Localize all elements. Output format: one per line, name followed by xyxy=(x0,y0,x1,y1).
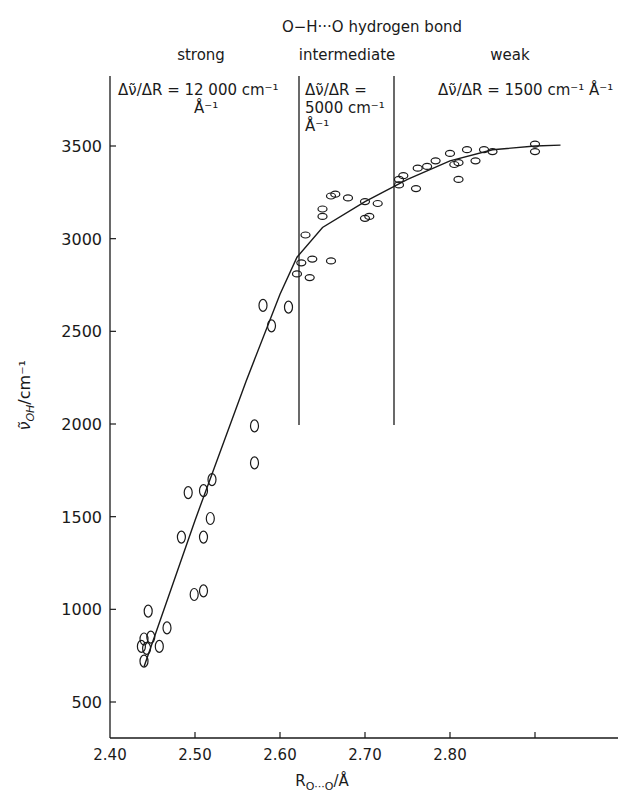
x-tick-label: 2.50 xyxy=(178,746,211,764)
data-point xyxy=(190,589,198,601)
data-point xyxy=(144,605,152,617)
data-point xyxy=(297,260,306,266)
data-point xyxy=(344,195,353,201)
x-axis-label: RO···O/Å xyxy=(295,771,349,793)
data-point xyxy=(308,256,317,262)
slope-strong-unit: Å⁻¹ xyxy=(194,98,218,117)
x-tick-label: 2.70 xyxy=(348,746,381,764)
axes xyxy=(110,76,618,738)
data-point xyxy=(531,149,540,155)
y-tick-label: 2000 xyxy=(61,415,102,434)
data-point xyxy=(318,206,327,212)
y-axis-label: ν̃OH/cm⁻¹ xyxy=(15,360,37,431)
region-label-intermediate: intermediate xyxy=(299,46,396,64)
y-tick-label: 2500 xyxy=(61,322,102,341)
data-point xyxy=(251,420,259,432)
data-point xyxy=(454,176,463,182)
y-tick-label: 500 xyxy=(71,693,102,712)
slope-weak-annotation: Δν̃/ΔR = 1500 cm⁻¹ Å⁻¹ xyxy=(438,80,613,99)
slope-strong-annotation: Δν̃/ΔR = 12 000 cm⁻¹ xyxy=(118,81,279,99)
region-label-weak: weak xyxy=(490,46,530,64)
data-point xyxy=(413,165,422,171)
data-point xyxy=(177,531,185,543)
data-point xyxy=(463,147,472,153)
y-axis-ticks: 500100015002000250030003500 xyxy=(61,137,116,712)
svg-text:ν̃OH/cm⁻¹: ν̃OH/cm⁻¹ xyxy=(15,360,37,431)
y-label-unit: /cm⁻¹ xyxy=(15,360,34,405)
data-point xyxy=(293,271,302,277)
data-point xyxy=(318,213,327,219)
x-axis-ticks: 2.402.502.602.702.80 xyxy=(93,732,535,764)
data-point xyxy=(301,232,310,238)
data-points xyxy=(137,141,539,667)
data-point xyxy=(184,487,192,499)
x-label-sub: O···O xyxy=(306,780,334,793)
slope-intermediate-unit: Å⁻¹ xyxy=(305,116,329,135)
y-tick-label: 1500 xyxy=(61,508,102,527)
data-point xyxy=(412,186,421,192)
x-tick-label: 2.40 xyxy=(93,746,126,764)
y-label-sub: OH xyxy=(24,405,37,422)
x-label-unit: /Å xyxy=(333,771,349,790)
data-point xyxy=(327,258,336,264)
data-point xyxy=(431,158,440,164)
data-point xyxy=(305,275,314,281)
data-point xyxy=(373,201,382,207)
data-point xyxy=(446,150,455,156)
data-point xyxy=(200,531,208,543)
data-point xyxy=(471,158,480,164)
data-point xyxy=(423,163,432,169)
data-point xyxy=(206,513,214,525)
data-point xyxy=(268,320,276,332)
chart-title: O−H···O hydrogen bond xyxy=(282,18,462,36)
x-tick-label: 2.80 xyxy=(433,746,466,764)
data-point xyxy=(137,640,145,652)
y-label-symbol: ν̃ xyxy=(15,422,34,431)
data-point xyxy=(285,301,293,313)
y-tick-label: 1000 xyxy=(61,600,102,619)
data-point xyxy=(251,457,259,469)
data-point xyxy=(259,299,267,311)
y-tick-label: 3500 xyxy=(61,137,102,156)
fit-curve xyxy=(144,145,561,667)
data-point xyxy=(163,622,171,634)
data-point xyxy=(155,640,163,652)
x-label-symbol: R xyxy=(295,772,305,790)
x-tick-label: 2.60 xyxy=(263,746,296,764)
slope-intermediate-value: 5000 cm⁻¹ xyxy=(305,99,385,117)
data-point xyxy=(200,585,208,597)
region-label-strong: strong xyxy=(177,46,225,64)
hydrogen-bond-chart: O−H···O hydrogen bond strong intermediat… xyxy=(0,0,636,805)
slope-intermediate-annotation: Δν̃/ΔR = xyxy=(305,81,367,99)
y-tick-label: 3000 xyxy=(61,230,102,249)
